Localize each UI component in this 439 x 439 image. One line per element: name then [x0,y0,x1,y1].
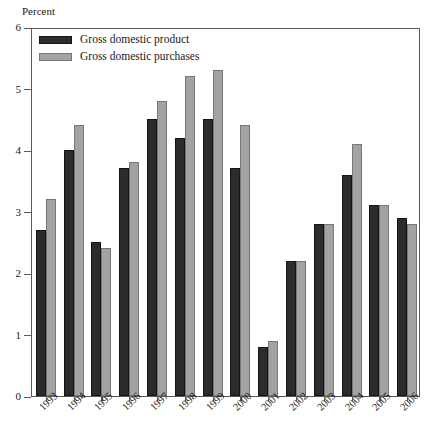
y-tick-mark [24,151,31,152]
y-tick-label: 6 [16,21,22,34]
legend-swatch-icon [39,36,72,44]
y-tick-label: 0 [16,390,22,403]
y-tick-mark [24,28,31,29]
bar-1994-series0 [64,150,74,396]
y-tick-mark [24,212,31,213]
bar-1993-series0 [36,230,46,396]
legend-swatch-icon [39,53,72,61]
bar-1997-series1 [157,101,167,396]
legend-item: Gross domestic product [39,33,239,48]
bar-2005-series0 [369,205,379,396]
bar-2002-series1 [296,261,306,396]
y-axis-title: Percent [22,5,55,17]
y-tick-label: 1 [16,329,22,342]
bar-2001-series0 [258,347,268,396]
bar-1998-series1 [185,76,195,396]
bar-1999-series0 [203,119,213,396]
y-tick-mark [24,274,31,275]
bar-1999-series1 [213,70,223,396]
bar-2006-series1 [407,224,417,396]
bar-2001-series1 [268,341,278,396]
bar-2002-series0 [286,261,296,396]
y-tick-mark [24,335,31,336]
y-tick-label: 5 [16,83,22,96]
bar-1995-series0 [91,242,101,396]
bar-2000-series1 [240,125,250,396]
bar-2000-series0 [230,168,240,396]
bar-2003-series1 [324,224,334,396]
bar-1994-series1 [74,125,84,396]
bar-2003-series0 [314,224,324,396]
legend-label: Gross domestic purchases [80,49,199,64]
y-tick-label: 4 [16,144,22,157]
chart-legend: Gross domestic productGross domestic pur… [39,33,239,67]
bar-1996-series1 [129,162,139,396]
bar-1998-series0 [175,138,185,396]
bar-1996-series0 [119,168,129,396]
plot-area [31,28,420,397]
bar-1995-series1 [101,248,111,396]
chart-figure: Percent 0123456 199319941995199619971998… [0,0,439,439]
y-tick-label: 2 [16,267,22,280]
legend-item: Gross domestic purchases [39,50,239,65]
bar-2004-series1 [352,144,362,396]
bar-2006-series0 [397,218,407,396]
bar-1993-series1 [46,199,56,396]
legend-label: Gross domestic product [80,32,189,47]
y-tick-mark [24,397,31,398]
y-tick-label: 3 [16,206,22,219]
bar-2004-series0 [342,175,352,396]
bar-2005-series1 [379,205,389,396]
bar-1997-series0 [147,119,157,396]
y-tick-mark [24,89,31,90]
